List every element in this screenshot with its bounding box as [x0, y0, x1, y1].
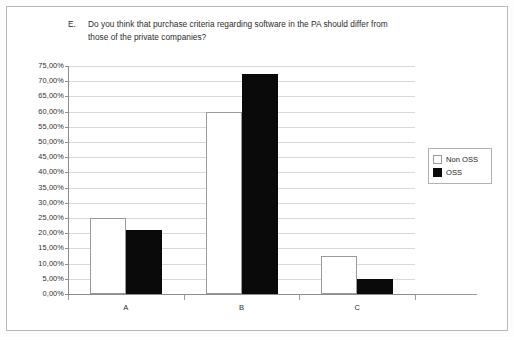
- y-axis-tick-mark: [65, 248, 69, 249]
- bar-oss-a: [126, 230, 162, 294]
- bar-non-oss-b: [206, 112, 242, 294]
- legend-swatch-oss-icon: [433, 168, 442, 177]
- legend-item-non-oss: Non OSS: [433, 153, 491, 166]
- y-axis-tick-label: 60,00%: [20, 107, 64, 116]
- y-axis-tick-mark: [65, 218, 69, 219]
- y-axis-tick-mark: [65, 203, 69, 204]
- bar-non-oss-c: [321, 256, 357, 294]
- y-axis-tick-label: 0,00%: [20, 289, 64, 298]
- y-axis-tick-mark: [65, 96, 69, 97]
- x-axis-tick-mark: [299, 294, 300, 300]
- legend-label-oss: OSS: [446, 168, 462, 177]
- chart-screenshot: E.Do you think that purchase criteria re…: [0, 0, 514, 337]
- y-axis-tick-label: 35,00%: [20, 183, 64, 192]
- y-axis-tick-label: 50,00%: [20, 137, 64, 146]
- x-axis-category-label: A: [106, 303, 146, 312]
- plot-area: [68, 66, 415, 294]
- legend-swatch-non-oss-icon: [433, 155, 442, 164]
- y-axis-tick-label: 15,00%: [20, 243, 64, 252]
- y-axis-tick-label: 10,00%: [20, 259, 64, 268]
- gridline: [68, 66, 415, 67]
- y-axis-tick-label: 70,00%: [20, 76, 64, 85]
- y-axis-tick-label: 20,00%: [20, 228, 64, 237]
- y-axis-tick-mark: [65, 264, 69, 265]
- y-axis-tick-label: 65,00%: [20, 91, 64, 100]
- y-axis-tick-mark: [65, 66, 69, 67]
- y-axis-tick-mark: [65, 142, 69, 143]
- chart-title-line1: Do you think that purchase criteria rega…: [88, 19, 348, 29]
- y-axis-tick-labels: 75,00%70,00%65,00%60,00%55,00%50,00%45,0…: [18, 66, 64, 294]
- y-axis-tick-mark: [65, 157, 69, 158]
- y-axis-tick-label: 40,00%: [20, 167, 64, 176]
- y-axis-tick-mark: [65, 112, 69, 113]
- bar-oss-c: [357, 279, 393, 294]
- y-axis-tick-mark: [65, 188, 69, 189]
- y-axis-tick-mark: [65, 279, 69, 280]
- y-axis-tick-mark: [65, 81, 69, 82]
- chart-legend: Non OSS OSS: [428, 148, 492, 184]
- y-axis-tick-mark: [65, 127, 69, 128]
- y-axis-tick-label: 75,00%: [20, 61, 64, 70]
- chart-title: E.Do you think that purchase criteria re…: [68, 18, 398, 44]
- y-axis-tick-label: 5,00%: [20, 274, 64, 283]
- y-axis-tick-mark: [65, 294, 69, 295]
- bar-oss-b: [242, 74, 278, 294]
- x-axis-category-label: B: [222, 303, 262, 312]
- y-axis-tick-label: 25,00%: [20, 213, 64, 222]
- y-axis-tick-mark: [65, 233, 69, 234]
- y-axis-tick-mark: [65, 172, 69, 173]
- chart-title-letter: E.: [68, 18, 88, 31]
- gridline: [68, 294, 415, 295]
- x-axis-tick-mark: [184, 294, 185, 300]
- legend-item-oss: OSS: [433, 166, 491, 179]
- x-axis-category-label: C: [337, 303, 377, 312]
- x-axis-baseline-extension: [415, 294, 477, 295]
- y-axis-tick-label: 30,00%: [20, 198, 64, 207]
- y-axis-tick-label: 55,00%: [20, 122, 64, 131]
- legend-label-non-oss: Non OSS: [446, 155, 478, 164]
- bar-non-oss-a: [90, 218, 126, 294]
- y-axis-tick-label: 45,00%: [20, 152, 64, 161]
